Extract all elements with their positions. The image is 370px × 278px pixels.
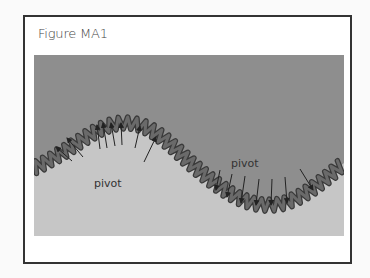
coil-wave-diagram bbox=[34, 55, 344, 236]
figure-frame: Figure MA1 bbox=[23, 15, 352, 264]
diagram-panel: pivot pivot bbox=[34, 55, 344, 236]
figure-title: Figure MA1 bbox=[38, 26, 108, 41]
pivot-label-left: pivot bbox=[94, 177, 122, 190]
pivot-label-right: pivot bbox=[231, 157, 259, 170]
